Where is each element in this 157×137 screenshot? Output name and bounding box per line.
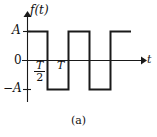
x-tick-label-half-period: T 2	[34, 60, 45, 83]
y-tick-label-negative-amplitude: −A	[3, 82, 22, 94]
y-tick-label-positive-amplitude: A	[12, 24, 21, 36]
half-period-denominator: 2	[34, 72, 45, 83]
square-wave-figure: f(t) t A 0 −A T 2 T (a)	[0, 0, 157, 137]
x-axis-label: t	[147, 54, 151, 65]
y-tick-label-origin: 0	[14, 54, 22, 66]
y-axis-label: f(t)	[30, 4, 49, 16]
x-tick-label-period: T	[57, 60, 64, 71]
figure-caption: (a)	[0, 114, 157, 127]
